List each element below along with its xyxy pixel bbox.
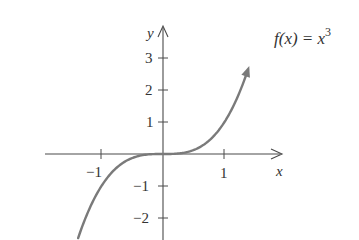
y-tick-label-1: 1 — [146, 114, 154, 130]
function-label: f(x) = x3 — [274, 25, 331, 48]
x-axis-label: x — [275, 163, 283, 179]
cubic-curve — [78, 74, 247, 239]
y-tick-label-3: 3 — [145, 50, 153, 66]
y-tick-label-2: 2 — [145, 82, 153, 98]
y-axis-label: y — [145, 25, 154, 41]
y-tick-label-neg1: −1 — [133, 178, 149, 194]
curve-arrow-icon — [241, 66, 250, 78]
cubic-function-graph: −1 1 3 2 1 −1 −2 x y f(x) = x3 — [0, 0, 359, 240]
y-tick-label-neg2: −2 — [133, 210, 149, 226]
x-tick-label-1: 1 — [220, 165, 228, 181]
x-tick-label-neg1: −1 — [86, 164, 102, 180]
